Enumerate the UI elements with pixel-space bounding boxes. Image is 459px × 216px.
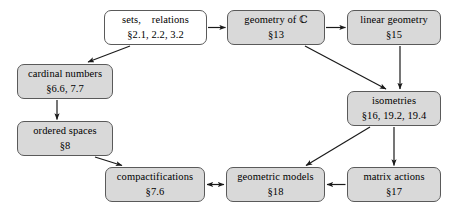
node-sections: §16, 19.2, 19.4 bbox=[362, 110, 427, 122]
arrow-geometry-to-isometries bbox=[305, 46, 386, 89]
node-sections: §8 bbox=[60, 140, 71, 152]
node-label: ordered spaces bbox=[33, 125, 97, 137]
node-sections: §18 bbox=[267, 186, 283, 198]
node-linear-geometry[interactable]: linear geometry §15 bbox=[347, 10, 441, 45]
node-label: sets, relations bbox=[122, 14, 189, 26]
node-sets-relations[interactable]: sets, relations §2.1, 2.2, 3.2 bbox=[104, 10, 207, 45]
node-geometry-of-c[interactable]: geometry of ℂ §13 bbox=[227, 10, 325, 45]
arrow-sets-to-cardinal bbox=[88, 46, 130, 62]
node-label: matrix actions bbox=[363, 171, 424, 183]
node-cardinal-numbers[interactable]: cardinal numbers §6.6, 7.7 bbox=[17, 64, 113, 99]
node-label: geometric models bbox=[237, 171, 314, 183]
node-compactifications[interactable]: compactifications §7.6 bbox=[105, 167, 205, 202]
node-label: compactifications bbox=[117, 171, 193, 183]
node-sections: §13 bbox=[268, 29, 284, 41]
node-sections: §7.6 bbox=[146, 186, 165, 198]
node-ordered-spaces[interactable]: ordered spaces §8 bbox=[17, 121, 113, 156]
node-label: cardinal numbers bbox=[28, 68, 102, 80]
node-sections: §17 bbox=[386, 186, 402, 198]
arrow-ordered-to-compactifications bbox=[95, 157, 122, 166]
node-sections: §2.1, 2.2, 3.2 bbox=[127, 29, 184, 41]
node-label: isometries bbox=[372, 95, 416, 107]
node-geometric-models[interactable]: geometric models §18 bbox=[226, 167, 325, 202]
node-isometries[interactable]: isometries §16, 19.2, 19.4 bbox=[347, 91, 441, 126]
node-matrix-actions[interactable]: matrix actions §17 bbox=[347, 167, 441, 202]
node-sections: §6.6, 7.7 bbox=[46, 83, 84, 95]
arrow-isometries-to-geometric-models bbox=[306, 127, 370, 166]
node-sections: §15 bbox=[386, 29, 402, 41]
flowchart-canvas: sets, relations §2.1, 2.2, 3.2 geometry … bbox=[0, 0, 459, 216]
node-label: geometry of ℂ bbox=[244, 14, 307, 26]
node-label: linear geometry bbox=[360, 14, 428, 26]
